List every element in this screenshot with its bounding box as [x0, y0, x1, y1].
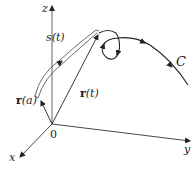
x-axis-label: x	[9, 151, 16, 164]
y-axis	[52, 124, 190, 141]
label-r-a: r(a)	[16, 94, 37, 107]
coordinate-axes: z x y 0	[9, 2, 191, 164]
x-axis	[20, 124, 52, 157]
origin-label: 0	[50, 128, 57, 141]
vector-r-a	[41, 101, 52, 124]
vector-r-t	[52, 35, 98, 124]
y-axis-label: y	[183, 143, 191, 156]
arc-length-label: s(t)	[46, 31, 65, 44]
curve-label: C	[176, 54, 186, 69]
position-vectors: r(a) r(t)	[16, 35, 99, 124]
label-r-t: r(t)	[80, 87, 99, 100]
curve-c: C	[99, 31, 188, 86]
curve-arrow-icon	[169, 64, 172, 67]
space-curve-arc-length-diagram: z x y 0 r(a) r(t) s(t) C	[0, 0, 195, 173]
z-axis-label: z	[41, 2, 48, 15]
